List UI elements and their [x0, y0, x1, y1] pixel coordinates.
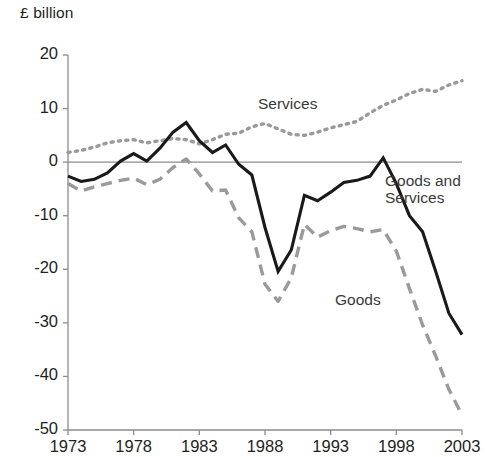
- y-axis-tick-label: 10: [6, 98, 58, 117]
- y-axis-tick-label: 20: [6, 44, 58, 63]
- y-axis-tick-label: 0: [6, 151, 58, 170]
- y-axis-tick-label: -10: [6, 205, 58, 224]
- x-axis-tick-label: 1973: [33, 437, 103, 456]
- x-axis-tick-label: 1998: [361, 437, 431, 456]
- x-axis-tick-label: 1978: [99, 437, 169, 456]
- x-axis-tick-label: 1993: [296, 437, 366, 456]
- x-axis-tick-label: 1988: [230, 437, 300, 456]
- x-axis-tick-label: 2003: [427, 437, 485, 456]
- x-axis-tick-label: 1983: [164, 437, 234, 456]
- series-line-services: [68, 81, 462, 153]
- series-group: [68, 81, 462, 415]
- y-axis-tick-label: -50: [6, 419, 58, 438]
- series-label-goods-and-services: Goods and Services: [385, 172, 461, 207]
- series-label-services: Services: [258, 95, 317, 112]
- y-axis-tick-label: -40: [6, 365, 58, 384]
- series-line-goods-and-services: [68, 123, 462, 335]
- y-axis-tick-label: -30: [6, 312, 58, 331]
- y-axis-tick-label: -20: [6, 258, 58, 277]
- series-label-goods: Goods: [335, 291, 381, 308]
